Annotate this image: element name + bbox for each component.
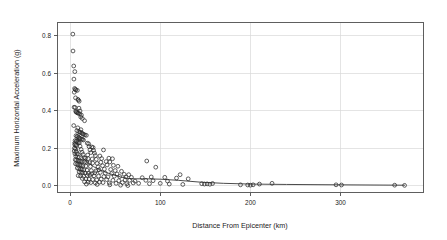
y-tick-label: 0.6 (42, 70, 51, 77)
y-tick-label: 0.8 (42, 32, 51, 39)
y-tick-label: 0.0 (42, 182, 51, 189)
x-tick-label: 300 (335, 199, 346, 206)
scatter-plot-figure: 0100200300 0.00.20.40.60.8 Distance From… (0, 0, 447, 240)
x-tick-label: 100 (155, 199, 166, 206)
x-tick-label: 0 (68, 199, 72, 206)
x-axis-label: Distance From Epicenter (km) (192, 221, 287, 230)
y-axis-label: Maximum Horizontal Acceleration (g) (12, 49, 21, 166)
x-tick-label: 200 (245, 199, 256, 206)
y-tick-label: 0.4 (42, 107, 51, 114)
y-tick-label: 0.2 (42, 145, 51, 152)
